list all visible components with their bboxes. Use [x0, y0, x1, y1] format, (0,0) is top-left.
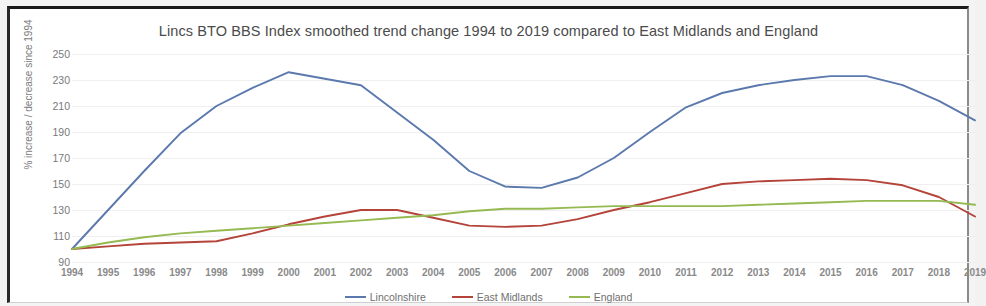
x-axis-tick-label: 2018: [928, 267, 950, 278]
x-axis-tick-label: 2008: [567, 267, 589, 278]
x-axis-tick-label: 2004: [422, 267, 444, 278]
x-axis-tick-label: 1996: [133, 267, 155, 278]
x-axis-tick-label: 2007: [530, 267, 552, 278]
x-axis-tick-label: 1995: [97, 267, 119, 278]
legend-label: England: [594, 291, 633, 303]
x-axis-tick-label: 2016: [856, 267, 878, 278]
x-axis-tick-label: 1998: [205, 267, 227, 278]
x-axis-tick-label: 1999: [241, 267, 263, 278]
y-axis-tick-label: 250: [52, 48, 70, 60]
x-axis-tick-label: 2003: [386, 267, 408, 278]
legend-item-england[interactable]: England: [569, 291, 633, 303]
x-axis-tick-label: 2001: [314, 267, 336, 278]
x-axis-tick-label: 2015: [819, 267, 841, 278]
y-axis-tick-label: 210: [52, 100, 70, 112]
y-axis-tick-label: 230: [52, 74, 70, 86]
x-axis-tick-label: 2005: [458, 267, 480, 278]
legend-item-lincolnshire[interactable]: Lincolnshire: [345, 291, 426, 303]
x-axis-tick-label: 1997: [169, 267, 191, 278]
gridline: [72, 262, 975, 263]
chart-card: Lincs BTO BBS Index smoothed trend chang…: [10, 9, 967, 302]
x-axis-tick-label: 2013: [747, 267, 769, 278]
x-axis-tick-labels: 1994199519961997199819992000200120022003…: [72, 267, 975, 283]
series-line-east-midlands: [72, 179, 975, 249]
y-axis-tick-label: 170: [52, 152, 70, 164]
y-axis-tick-labels: 25023021019017015013011090: [28, 54, 72, 262]
legend-label: East Midlands: [477, 291, 543, 303]
legend-swatch: [345, 296, 366, 298]
x-axis-tick-label: 2017: [892, 267, 914, 278]
y-axis-tick-label: 190: [52, 126, 70, 138]
chart-image-frame: Lincs BTO BBS Index smoothed trend chang…: [7, 6, 969, 303]
x-axis-tick-label: 2014: [783, 267, 805, 278]
y-axis-tick-label: 150: [52, 178, 70, 190]
series-lines: [72, 54, 975, 262]
plot-area: [72, 54, 975, 262]
legend-item-east-midlands[interactable]: East Midlands: [452, 291, 543, 303]
x-axis-tick-label: 2009: [603, 267, 625, 278]
x-axis-tick-label: 2002: [350, 267, 372, 278]
legend-swatch: [452, 296, 473, 298]
x-axis-tick-label: 1994: [61, 267, 83, 278]
x-axis-tick-label: 2011: [675, 267, 697, 278]
chart-title: Lincs BTO BBS Index smoothed trend chang…: [10, 23, 967, 39]
legend-label: Lincolnshire: [370, 291, 426, 303]
x-axis-tick-label: 2012: [711, 267, 733, 278]
y-axis-tick-label: 130: [52, 204, 70, 216]
chart-legend: LincolnshireEast MidlandsEngland: [10, 291, 967, 303]
x-axis-tick-label: 2000: [278, 267, 300, 278]
legend-swatch: [569, 296, 590, 298]
x-axis-tick-label: 2019: [964, 267, 986, 278]
x-axis-tick-label: 2010: [639, 267, 661, 278]
series-line-lincolnshire: [72, 72, 975, 249]
y-axis-tick-label: 110: [53, 230, 70, 242]
x-axis-tick-label: 2006: [494, 267, 516, 278]
